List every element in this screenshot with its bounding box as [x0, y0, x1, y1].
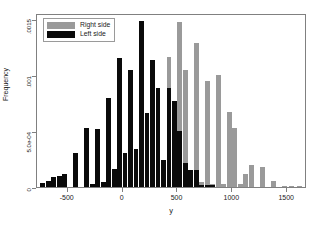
histogram-bar: [282, 186, 287, 187]
x-tick-label: 1000: [224, 194, 240, 201]
legend-item-left-side: Left side: [47, 30, 110, 39]
x-tick-label: 500: [171, 194, 183, 201]
histogram-bar: [139, 21, 144, 187]
histogram-bar: [205, 185, 210, 187]
x-tick-mark: [286, 188, 287, 192]
legend-swatch-icon: [47, 22, 75, 29]
histogram-figure: Frequency 05.0e-04.001.0015 y -500050010…: [0, 0, 317, 228]
x-tick-label: 1500: [278, 194, 294, 201]
histogram-bar: [297, 186, 302, 187]
histogram-bar: [210, 185, 215, 187]
histogram-bar: [205, 81, 210, 187]
histogram-bar: [112, 169, 117, 187]
histogram-bar: [249, 165, 254, 187]
histogram-bar: [145, 113, 150, 187]
histogram-bar: [194, 170, 199, 187]
x-axis-title: y: [169, 207, 173, 215]
histogram-bar: [106, 98, 111, 187]
histogram-bar: [101, 182, 106, 187]
x-tick-mark: [122, 188, 123, 192]
histogram-bar: [123, 153, 128, 187]
x-tick-mark: [231, 188, 232, 192]
y-axis-title: Frequency: [2, 68, 9, 101]
histogram-bar: [188, 170, 193, 187]
histogram-bar: [177, 131, 182, 187]
histogram-bar: [232, 128, 237, 187]
x-tick-label: -500: [60, 194, 74, 201]
histogram-bar: [84, 128, 89, 187]
histogram-bar: [194, 43, 199, 187]
histogram-bar: [90, 184, 95, 187]
histogram-bar: [183, 163, 188, 187]
histogram-bar: [289, 186, 294, 187]
histogram-bar: [95, 129, 100, 187]
histogram-bar: [260, 167, 265, 187]
histogram-bar: [199, 185, 204, 187]
legend-swatch-icon: [47, 31, 75, 38]
x-tick-label: 0: [120, 194, 124, 201]
histogram-bar: [134, 149, 139, 187]
x-axis: y -500050010001500: [0, 188, 317, 228]
histogram-bar: [46, 181, 51, 187]
y-tick-label: .001: [26, 76, 32, 88]
histogram-bar: [167, 88, 172, 187]
histogram-bar: [238, 184, 243, 187]
histogram-bar: [172, 101, 177, 187]
legend-item-right-side: Right side: [47, 21, 110, 30]
x-tick-mark: [67, 188, 68, 192]
legend-item-label: Left side: [80, 31, 106, 38]
legend-item-label: Right side: [80, 22, 110, 29]
histogram-bar: [51, 177, 56, 187]
x-tick-mark: [176, 188, 177, 192]
histogram-bar: [62, 174, 67, 187]
y-tick-label: .0015: [26, 20, 32, 35]
histogram-bar: [216, 75, 221, 187]
y-tick-label: 5.0e-04: [26, 132, 32, 152]
histogram-bar: [73, 153, 78, 187]
histogram-bar: [128, 70, 133, 187]
legend: Right side Left side: [43, 18, 115, 42]
histogram-bar: [221, 184, 226, 187]
histogram-bar: [161, 160, 166, 188]
histogram-bar: [40, 183, 45, 187]
histogram-bar: [243, 174, 248, 187]
histogram-bar: [156, 88, 161, 187]
histogram-bar: [117, 58, 122, 187]
histogram-bar: [271, 181, 276, 187]
histogram-bar: [227, 112, 232, 187]
histogram-bar: [57, 176, 62, 187]
histogram-bar: [150, 60, 155, 187]
